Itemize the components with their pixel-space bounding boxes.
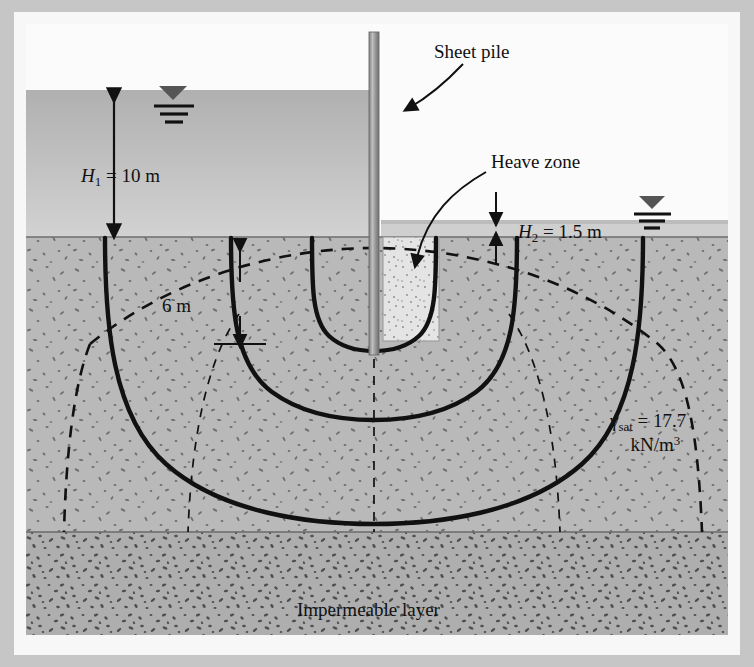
- sheet-pile: [369, 32, 379, 355]
- h2-value: = 1.5 m: [538, 221, 602, 242]
- upstream-water-body: [26, 90, 374, 237]
- figure-root: H1 = 10 m H2 = 1.5 m Sheet pile Heave zo…: [0, 0, 754, 667]
- gamma-value: = 17.7: [633, 410, 686, 431]
- h2-symbol: H: [518, 221, 532, 242]
- gamma-unit: kN/m: [630, 434, 673, 455]
- diagram-canvas: H1 = 10 m H2 = 1.5 m Sheet pile Heave zo…: [26, 24, 728, 635]
- h1-value: = 10 m: [101, 165, 160, 186]
- gamma-unit-exponent: 3: [674, 433, 680, 448]
- impermeable-layer-label: Impermeable layer: [297, 600, 440, 621]
- h2-label: H2 = 1.5 m: [518, 222, 602, 245]
- depth-6m-label: 6 m: [162, 296, 191, 317]
- sheet-pile-label: Sheet pile: [434, 42, 509, 63]
- h1-symbol: H: [81, 165, 95, 186]
- gamma-sat-label: γsat = 17.7 kN/m3: [610, 411, 686, 456]
- gamma-subscript: sat: [618, 419, 632, 434]
- flow-net-svg: [26, 24, 728, 635]
- heave-zone-label: Heave zone: [491, 152, 580, 173]
- h1-label: H1 = 10 m: [81, 166, 160, 189]
